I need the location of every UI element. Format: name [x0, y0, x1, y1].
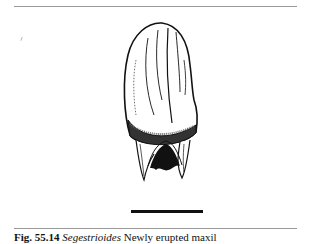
figure-caption: Fig. 55.14 Segestrioides Newly erupted m…	[14, 230, 304, 244]
scale-bar	[131, 210, 203, 213]
tooth-illustration	[100, 20, 210, 200]
bottom-rule	[14, 228, 297, 229]
caption-taxon: Segestrioides	[62, 231, 121, 243]
top-rule	[14, 6, 297, 7]
caption-text: Newly erupted maxil	[124, 231, 217, 243]
figure-label: Fig. 55.14	[14, 231, 60, 243]
stray-mark	[20, 37, 23, 41]
